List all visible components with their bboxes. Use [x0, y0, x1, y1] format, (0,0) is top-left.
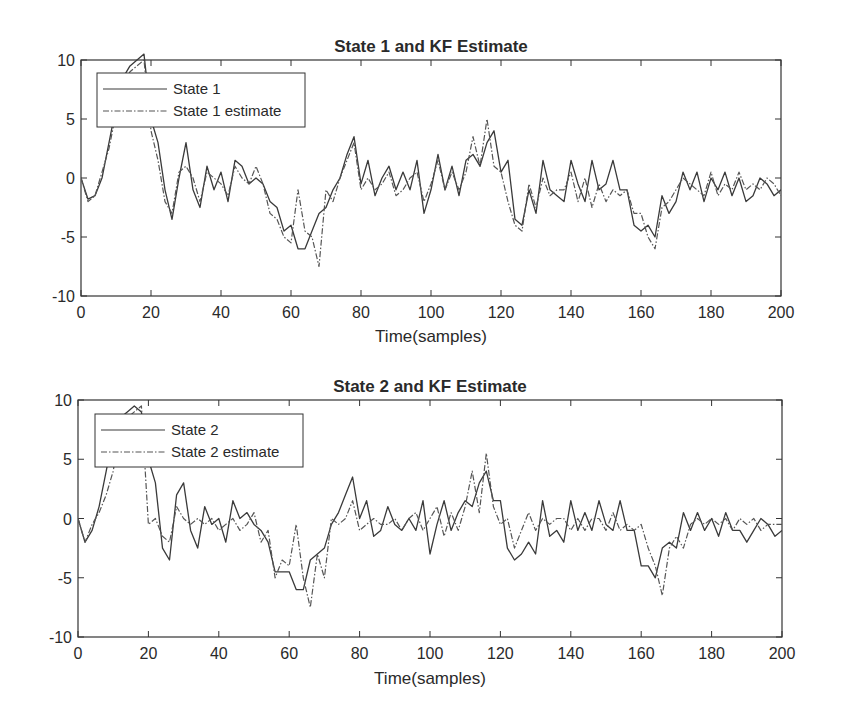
y-tick-label: 10: [54, 392, 72, 409]
y-tick-label: -5: [58, 570, 72, 587]
x-tick-label: 140: [558, 304, 585, 321]
chart-state-2: State 2 and KF Estimate02040608010012014…: [49, 377, 796, 688]
x-tick-label: 40: [210, 645, 228, 662]
x-tick-label: 160: [628, 645, 655, 662]
chart-title: State 2 and KF Estimate: [333, 377, 527, 396]
y-tick-label: -10: [52, 288, 75, 305]
legend: State 1State 1 estimate: [97, 73, 305, 127]
x-tick-label: 60: [280, 645, 298, 662]
legend-label: State 1: [173, 80, 221, 97]
x-axis-label: Time(samples): [375, 327, 487, 346]
x-tick-label: 20: [140, 645, 158, 662]
y-tick-label: 0: [63, 511, 72, 528]
y-tick-label: 5: [63, 451, 72, 468]
figure: State 1 and KF Estimate02040608010012014…: [0, 0, 844, 707]
x-axis-label: Time(samples): [374, 669, 486, 688]
x-tick-label: 180: [698, 645, 725, 662]
legend: State 2State 2 estimate: [95, 414, 303, 467]
y-tick-label: 10: [57, 52, 75, 69]
x-tick-label: 200: [768, 304, 795, 321]
legend-label: State 2: [171, 421, 219, 438]
x-tick-label: 120: [488, 304, 515, 321]
legend-label: State 1 estimate: [173, 102, 281, 119]
y-tick-label: 0: [66, 170, 75, 187]
chart-title: State 1 and KF Estimate: [334, 37, 528, 56]
x-tick-label: 40: [212, 304, 230, 321]
legend-label: State 2 estimate: [171, 443, 279, 460]
x-tick-label: 80: [352, 304, 370, 321]
x-tick-label: 0: [77, 304, 86, 321]
x-tick-label: 180: [698, 304, 725, 321]
y-tick-label: -5: [61, 229, 75, 246]
x-tick-label: 200: [769, 645, 796, 662]
y-tick-label: 5: [66, 111, 75, 128]
x-tick-label: 80: [351, 645, 369, 662]
x-tick-label: 100: [418, 304, 445, 321]
x-tick-label: 160: [628, 304, 655, 321]
chart-state-1: State 1 and KF Estimate02040608010012014…: [52, 37, 795, 346]
x-tick-label: 20: [142, 304, 160, 321]
x-tick-label: 0: [74, 645, 83, 662]
x-tick-label: 120: [487, 645, 514, 662]
y-tick-label: -10: [49, 629, 72, 646]
x-tick-label: 100: [417, 645, 444, 662]
x-tick-label: 60: [282, 304, 300, 321]
x-tick-label: 140: [557, 645, 584, 662]
